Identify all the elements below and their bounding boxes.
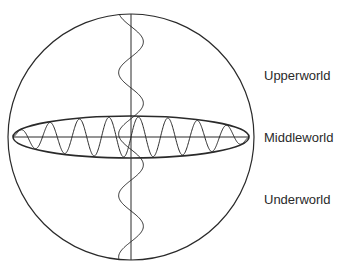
underworld-label: Underworld [264, 193, 330, 207]
middleworld-label: Middleworld [264, 131, 333, 145]
upperworld-label: Upperworld [264, 69, 330, 83]
